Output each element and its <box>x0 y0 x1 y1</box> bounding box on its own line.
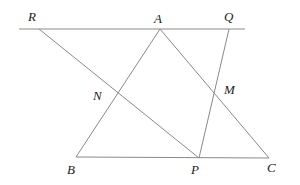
label-P: P <box>191 163 199 176</box>
label-N: N <box>93 89 102 102</box>
label-C: C <box>267 161 276 174</box>
geometry-diagram: R A Q N M B P C <box>0 0 300 185</box>
label-R: R <box>28 10 36 23</box>
segment-BC <box>76 157 269 158</box>
label-M: M <box>224 83 235 96</box>
label-B: B <box>67 163 75 176</box>
diagram-canvas <box>0 0 300 185</box>
label-A: A <box>154 12 162 25</box>
segment-RP <box>39 29 199 158</box>
label-Q: Q <box>224 10 233 23</box>
